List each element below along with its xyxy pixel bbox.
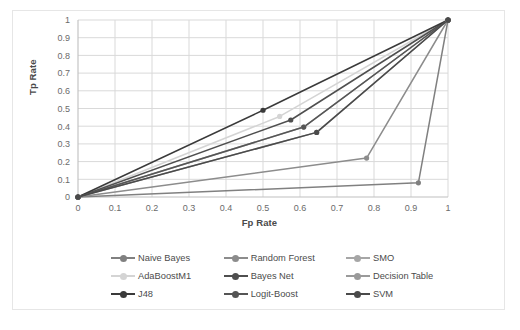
y-tick-label: 0.2 <box>57 157 70 167</box>
legend-swatch-icon <box>224 253 248 263</box>
y-tick-label: 0.3 <box>57 139 70 149</box>
y-tick-label: 0.6 <box>57 86 70 96</box>
legend-item-random-forest[interactable]: Random Forest <box>224 253 346 263</box>
x-axis-title-text: Fp Rate <box>242 217 278 228</box>
x-tick-label: 0.9 <box>405 203 418 213</box>
y-tick-label: 1 <box>65 15 70 25</box>
y-axis-title: Tp Rate <box>27 59 38 95</box>
data-point-marker <box>260 108 265 113</box>
x-tick-label: 0.7 <box>331 203 344 213</box>
legend-item-decision-table[interactable]: Decision Table <box>346 271 451 281</box>
y-tick-label: 0.5 <box>57 104 70 114</box>
x-tick-label: 0.6 <box>294 203 307 213</box>
x-tick-label: 0.4 <box>220 203 233 213</box>
x-tick-label: 1 <box>445 203 450 213</box>
legend-label: J48 <box>138 289 153 299</box>
data-point-marker <box>364 155 369 160</box>
chart-legend: Naive BayesRandom ForestSMOAdaBoostM1Bay… <box>111 249 451 303</box>
y-axis-title-text: Tp Rate <box>27 59 38 95</box>
legend-label: SMO <box>373 253 394 263</box>
legend-item-adaboostm1[interactable]: AdaBoostM1 <box>111 271 224 281</box>
y-tick-label: 0.4 <box>57 122 70 132</box>
legend-swatch-icon <box>346 271 370 281</box>
legend-swatch-icon <box>346 289 370 299</box>
legend-label: Logit-Boost <box>251 289 298 299</box>
legend-row: Naive BayesRandom ForestSMO <box>111 249 451 267</box>
legend-label: Naive Bayes <box>138 253 190 263</box>
legend-item-bayes-net[interactable]: Bayes Net <box>224 271 346 281</box>
x-axis-title: Fp Rate <box>13 217 506 228</box>
x-tick-labels: 00.10.20.30.40.50.60.70.80.91 <box>75 203 450 213</box>
data-point-marker <box>75 194 80 199</box>
data-point-marker <box>301 124 306 129</box>
x-tick-label: 0.3 <box>183 203 196 213</box>
legend-swatch-icon <box>346 253 370 263</box>
legend-item-j48[interactable]: J48 <box>111 289 224 299</box>
legend-item-svm[interactable]: SVM <box>346 289 451 299</box>
data-point-marker <box>277 114 282 119</box>
legend-row: AdaBoostM1Bayes NetDecision Table <box>111 267 451 285</box>
chart-frame: 00.10.20.30.40.50.60.70.80.91 00.10.20.3… <box>12 10 505 310</box>
legend-label: Bayes Net <box>251 271 294 281</box>
data-point-marker <box>416 180 421 185</box>
legend-swatch-icon <box>111 289 135 299</box>
legend-swatch-icon <box>224 271 248 281</box>
data-point-marker <box>314 130 319 135</box>
legend-swatch-icon <box>111 253 135 263</box>
y-tick-label: 0.7 <box>57 68 70 78</box>
data-point-marker <box>445 17 450 22</box>
y-tick-label: 0 <box>65 192 70 202</box>
legend-item-logit-boost[interactable]: Logit-Boost <box>224 289 346 299</box>
x-tick-label: 0.5 <box>257 203 270 213</box>
data-point-marker <box>288 117 293 122</box>
y-tick-label: 0.9 <box>57 33 70 43</box>
x-tick-label: 0.2 <box>146 203 159 213</box>
legend-label: Random Forest <box>251 253 315 263</box>
legend-swatch-icon <box>224 289 248 299</box>
legend-label: AdaBoostM1 <box>138 271 191 281</box>
x-tick-label: 0 <box>75 203 80 213</box>
x-tick-label: 0.8 <box>368 203 381 213</box>
legend-item-smo[interactable]: SMO <box>346 253 451 263</box>
y-tick-labels: 00.10.20.30.40.50.60.70.80.91 <box>57 15 70 202</box>
legend-item-naive-bayes[interactable]: Naive Bayes <box>111 253 224 263</box>
y-tick-label: 0.1 <box>57 175 70 185</box>
y-tick-label: 0.8 <box>57 51 70 61</box>
x-tick-label: 0.1 <box>109 203 122 213</box>
legend-label: Decision Table <box>373 271 433 281</box>
legend-swatch-icon <box>111 271 135 281</box>
legend-label: SVM <box>373 289 393 299</box>
legend-row: J48Logit-BoostSVM <box>111 285 451 303</box>
